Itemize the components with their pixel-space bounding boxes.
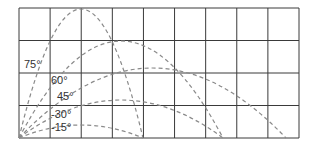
label-60: 60° (51, 74, 68, 86)
label-75: 75° (24, 58, 41, 70)
angle-labels: 75° 60° 45° -30° -15° (24, 58, 74, 133)
projectile-diagram: 75° 60° 45° -30° -15° (0, 0, 313, 149)
trajectory-60 (19, 41, 223, 138)
label-30: -30° (51, 108, 71, 120)
label-15: -15° (51, 121, 71, 133)
label-45: 45° (57, 90, 74, 102)
